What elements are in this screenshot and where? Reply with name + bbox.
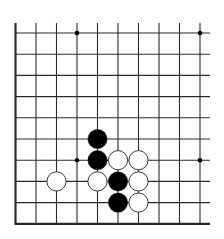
black-stone[interactable] [108,172,127,191]
white-stone[interactable] [47,172,66,191]
white-stone[interactable] [129,151,148,170]
star-point-icon [198,158,203,163]
white-stone[interactable] [129,172,148,191]
black-stone[interactable] [88,151,107,170]
star-point-icon [198,31,203,36]
white-stone[interactable] [108,151,127,170]
board-grid [15,23,211,224]
star-point-icon [75,31,80,36]
white-stone[interactable] [129,193,148,212]
white-stone[interactable] [88,172,107,191]
star-point-icon [75,158,80,163]
go-board[interactable] [0,0,224,239]
black-stone[interactable] [88,129,107,148]
black-stone[interactable] [108,193,127,212]
